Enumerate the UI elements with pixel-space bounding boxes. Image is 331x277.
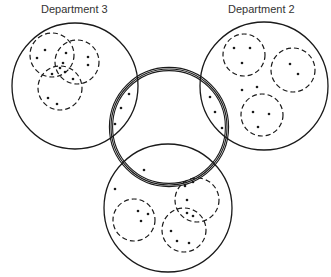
member-dot bbox=[176, 240, 179, 243]
member-dot bbox=[128, 93, 131, 96]
member-dot bbox=[289, 63, 292, 66]
member-dot bbox=[147, 213, 150, 216]
member-dot bbox=[64, 71, 67, 74]
member-dot bbox=[36, 57, 39, 60]
member-dot bbox=[120, 107, 123, 110]
member-dot bbox=[87, 56, 90, 59]
member-dot bbox=[87, 64, 90, 67]
member-dot bbox=[140, 220, 143, 223]
group-dashed-circle bbox=[55, 40, 99, 84]
member-dot bbox=[241, 89, 244, 92]
member-dot bbox=[114, 123, 117, 126]
member-dot bbox=[65, 52, 68, 55]
department-circle bbox=[12, 23, 138, 149]
member-dot bbox=[72, 78, 75, 81]
member-dot bbox=[56, 103, 59, 106]
group-dashed-circle bbox=[223, 34, 265, 76]
member-dot bbox=[137, 210, 140, 213]
member-dot bbox=[186, 212, 189, 215]
member-dot bbox=[221, 127, 224, 130]
group-dashed-circle bbox=[175, 178, 219, 222]
member-dot bbox=[192, 181, 195, 184]
member-dot bbox=[186, 199, 189, 202]
group-dashed-circle bbox=[241, 94, 283, 136]
member-dot bbox=[44, 49, 47, 52]
member-dot bbox=[268, 113, 271, 116]
department-3-label: Department 3 bbox=[41, 3, 108, 15]
member-dot bbox=[51, 73, 54, 76]
group-dashed-circle bbox=[271, 48, 315, 92]
circles-layer bbox=[12, 22, 328, 272]
member-dot bbox=[143, 169, 146, 172]
member-dot bbox=[114, 188, 117, 191]
group-dashed-circle bbox=[113, 199, 155, 241]
member-dot bbox=[62, 62, 65, 65]
group-dashed-circle bbox=[162, 208, 206, 252]
member-dot bbox=[170, 230, 173, 233]
group-dashed-circle bbox=[38, 66, 82, 110]
member-dot bbox=[209, 96, 212, 99]
member-dot bbox=[249, 47, 252, 50]
department-2-label: Department 2 bbox=[228, 3, 295, 15]
member-dot bbox=[297, 73, 300, 76]
group-dashed-circle bbox=[30, 33, 74, 77]
member-dot bbox=[257, 126, 260, 129]
dots-layer bbox=[36, 47, 300, 245]
member-dot bbox=[214, 111, 217, 114]
member-dot bbox=[59, 67, 62, 70]
department-overlap-diagram: Department 3 Department 2 bbox=[0, 0, 331, 277]
member-dot bbox=[188, 242, 191, 245]
member-dot bbox=[47, 97, 50, 100]
center-double-circle-inner bbox=[113, 71, 226, 184]
center-double-circle-outer bbox=[109, 67, 228, 186]
member-dot bbox=[252, 111, 255, 114]
member-dot bbox=[233, 47, 236, 50]
member-dot bbox=[241, 62, 244, 65]
center-double-circle-middle bbox=[111, 69, 227, 185]
member-dot bbox=[184, 185, 187, 188]
member-dot bbox=[192, 215, 195, 218]
member-dot bbox=[256, 86, 259, 89]
